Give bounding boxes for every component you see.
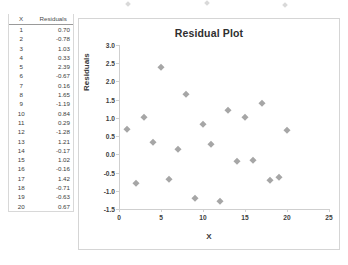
- cell-residual: 0.16: [33, 81, 73, 90]
- cell-residual: -1.19: [33, 100, 73, 109]
- table-row: 110.29: [9, 118, 73, 127]
- cell-x: 5: [9, 63, 33, 72]
- cell-x: 1: [9, 25, 33, 35]
- data-point: [225, 107, 231, 113]
- chart-title: Residual Plot: [79, 27, 339, 39]
- cell-x: 6: [9, 72, 33, 81]
- table-row: 18-0.71: [9, 183, 73, 192]
- y-tick-label: 2.0: [106, 78, 115, 85]
- cell-x: 17: [9, 174, 33, 183]
- data-point: [200, 120, 206, 126]
- cell-residual: 2.39: [33, 63, 73, 72]
- x-tick-mark: [119, 209, 120, 212]
- data-point: [191, 194, 197, 200]
- column-header-residuals: Residuals: [33, 14, 73, 25]
- data-point: [183, 91, 189, 97]
- cell-x: 16: [9, 165, 33, 174]
- cell-x: 11: [9, 118, 33, 127]
- cell-residual: -0.17: [33, 146, 73, 155]
- cell-residual: -1.28: [33, 128, 73, 137]
- cell-residual: -0.78: [33, 35, 73, 44]
- table-row: 52.39: [9, 63, 73, 72]
- y-tick-label: -1.5: [104, 206, 115, 213]
- y-tick-label: -0.5: [104, 169, 115, 176]
- y-axis-title: Residuals: [82, 53, 91, 91]
- cell-residual: 0.70: [33, 25, 73, 35]
- x-tick-label: 15: [241, 214, 248, 221]
- y-tick-mark: [116, 45, 119, 46]
- y-tick-label: 0.5: [106, 133, 115, 140]
- y-tick-mark: [116, 191, 119, 192]
- cell-x: 14: [9, 146, 33, 155]
- ghost-mark: [282, 2, 288, 8]
- data-point: [284, 127, 290, 133]
- x-tick-mark: [329, 209, 330, 212]
- ghost-mark: [204, 0, 210, 6]
- residuals-data-table[interactable]: X Residuals 10.702-0.7831.0340.3352.396-…: [8, 14, 74, 212]
- data-point: [267, 177, 273, 183]
- cell-x: 3: [9, 44, 33, 53]
- cut-off-content-strip: [0, 0, 348, 12]
- x-tick-label: 20: [283, 214, 290, 221]
- table-row: 151.02: [9, 156, 73, 165]
- ghost-mark: [125, 1, 131, 7]
- table-row: 9-1.19: [9, 100, 73, 109]
- data-point: [217, 198, 223, 204]
- data-point: [133, 180, 139, 186]
- data-point: [141, 114, 147, 120]
- cell-residual: 1.42: [33, 174, 73, 183]
- cell-residual: 1.21: [33, 137, 73, 146]
- y-tick-mark: [116, 154, 119, 155]
- cell-residual: 1.03: [33, 44, 73, 53]
- x-tick-mark: [245, 209, 246, 212]
- data-point: [250, 157, 256, 163]
- data-point: [233, 157, 239, 163]
- y-tick-label: -1.0: [104, 187, 115, 194]
- x-axis-line: [119, 209, 329, 210]
- table: X Residuals 10.702-0.7831.0340.3352.396-…: [9, 14, 73, 211]
- residual-plot-chart[interactable]: Residual Plot Residuals X 3.02.52.01.51.…: [78, 18, 340, 250]
- cell-x: 20: [9, 202, 33, 211]
- column-header-x: X: [9, 14, 33, 25]
- cell-residual: 0.29: [33, 118, 73, 127]
- data-point: [242, 114, 248, 120]
- cell-x: 4: [9, 53, 33, 62]
- data-point: [275, 174, 281, 180]
- table-row: 81.65: [9, 90, 73, 99]
- table-row: 12-1.28: [9, 128, 73, 137]
- table-row: 131.21: [9, 137, 73, 146]
- data-point: [208, 141, 214, 147]
- y-tick-label: 0.0: [106, 151, 115, 158]
- x-tick-mark: [161, 209, 162, 212]
- x-tick-label: 0: [117, 214, 121, 221]
- cell-x: 8: [9, 90, 33, 99]
- cell-residual: -0.16: [33, 165, 73, 174]
- table-row: 40.33: [9, 53, 73, 62]
- cell-residual: 1.02: [33, 156, 73, 165]
- table-row: 6-0.67: [9, 72, 73, 81]
- x-tick-mark: [287, 209, 288, 212]
- cell-x: 2: [9, 35, 33, 44]
- table-row: 70.16: [9, 81, 73, 90]
- table-row: 14-0.17: [9, 146, 73, 155]
- cell-residual: 0.84: [33, 109, 73, 118]
- y-tick-mark: [116, 100, 119, 101]
- table-header: X Residuals: [9, 14, 73, 25]
- cell-residual: 0.67: [33, 202, 73, 211]
- x-tick-label: 10: [199, 214, 206, 221]
- y-tick-label: 3.0: [106, 42, 115, 49]
- data-point: [158, 64, 164, 70]
- cell-residual: 0.33: [33, 53, 73, 62]
- data-point: [259, 99, 265, 105]
- y-tick-label: 1.5: [106, 96, 115, 103]
- cell-x: 7: [9, 81, 33, 90]
- y-tick-mark: [116, 173, 119, 174]
- cell-residual: -0.71: [33, 183, 73, 192]
- cell-residual: -0.63: [33, 193, 73, 202]
- x-axis-title: X: [79, 232, 339, 241]
- cell-x: 13: [9, 137, 33, 146]
- y-tick-mark: [116, 81, 119, 82]
- data-point: [149, 139, 155, 145]
- table-row: 31.03: [9, 44, 73, 53]
- y-tick-label: 2.5: [106, 60, 115, 67]
